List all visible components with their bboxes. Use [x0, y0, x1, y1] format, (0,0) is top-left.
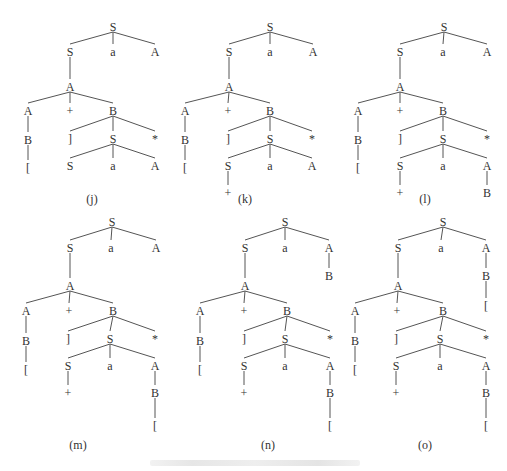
tree-node: B — [439, 304, 447, 318]
tree-edge — [28, 92, 70, 103]
tree-node: + — [241, 304, 248, 318]
tree-node: A — [22, 304, 31, 318]
tree-node: + — [65, 386, 72, 400]
tree-node: B — [326, 386, 334, 400]
tree-edge — [270, 116, 312, 131]
tree-edge — [440, 344, 486, 358]
parse-tree-figure: SSaAAA+BB[]S*SaA(j)SSaAAA+BB[]S*SaA+(k)S… — [0, 0, 507, 471]
tree-node: B — [266, 104, 274, 118]
tree-node: S — [437, 332, 444, 346]
tree-node: + — [67, 104, 74, 118]
tree-edge — [398, 291, 443, 303]
tree-node: a — [110, 45, 116, 59]
tree-node: [ — [328, 419, 332, 433]
tree-edge — [270, 32, 313, 44]
tree-node: A — [152, 241, 161, 255]
tree-edge — [285, 316, 287, 331]
tree-node: + — [225, 104, 232, 118]
tree-edge — [70, 291, 113, 303]
tree-node: S — [67, 159, 74, 173]
parse-tree-m: SSaAAA+BB[]S*SaA+B[(m) — [22, 215, 161, 452]
tree-node: S — [282, 215, 289, 229]
tree-node: A — [151, 159, 160, 173]
tree-edge — [113, 32, 155, 44]
tree-edge — [245, 291, 287, 303]
tree-node: + — [393, 386, 400, 400]
tree-edge — [398, 227, 443, 240]
tree-node: A — [241, 279, 250, 293]
subfigure-label: (n) — [261, 438, 275, 452]
tree-node: A — [483, 45, 492, 59]
figure-caption — [150, 460, 360, 466]
tree-edge — [443, 227, 486, 240]
tree-node: S — [242, 241, 249, 255]
tree-edge — [355, 291, 398, 303]
tree-edge — [444, 32, 487, 44]
tree-node: S — [225, 159, 232, 173]
tree-node: [ — [484, 299, 488, 313]
tree-node: ] — [398, 132, 402, 146]
tree-node: B — [196, 334, 204, 348]
tree-node: S — [107, 332, 114, 346]
tree-node: A — [309, 45, 318, 59]
tree-node: S — [282, 332, 289, 346]
tree-node: a — [440, 159, 446, 173]
tree-node: A — [394, 279, 403, 293]
tree-node: A — [483, 159, 492, 173]
tree-edge — [112, 227, 156, 240]
tree-node: B — [22, 334, 30, 348]
tree-node: S — [109, 215, 116, 229]
tree-edge — [68, 344, 110, 358]
tree-node: A — [66, 80, 75, 94]
tree-edge — [244, 344, 285, 358]
tree-node: [ — [198, 363, 202, 377]
tree-node: B — [181, 133, 189, 147]
tree-node: + — [397, 186, 404, 200]
tree-edge — [229, 32, 270, 44]
tree-node: A — [66, 279, 75, 293]
tree-node: S — [393, 359, 400, 373]
tree-node: S — [267, 20, 274, 34]
tree-node: a — [267, 45, 273, 59]
tree-node: [ — [24, 363, 28, 377]
tree-node: + — [397, 104, 404, 118]
tree-node: B — [325, 269, 333, 283]
tree-node: B — [482, 269, 490, 283]
tree-node: + — [66, 304, 73, 318]
tree-node: a — [110, 159, 116, 173]
subfigure-label: (k) — [238, 192, 252, 206]
tree-edge — [443, 316, 486, 331]
tree-node: * — [309, 132, 315, 146]
tree-node: A — [181, 104, 190, 118]
tree-edge — [26, 291, 70, 303]
tree-edge — [443, 144, 487, 158]
tree-node: B — [483, 186, 491, 200]
tree-node: B — [151, 386, 159, 400]
tree-node: ] — [66, 332, 70, 346]
tree-node: S — [65, 359, 72, 373]
tree-edge — [68, 316, 113, 331]
tree-node: a — [282, 241, 288, 255]
tree-node: A — [24, 104, 33, 118]
tree-node: ] — [394, 332, 398, 346]
tree-node: a — [108, 241, 114, 255]
tree-node: A — [308, 159, 317, 173]
tree-edge — [270, 144, 312, 158]
tree-node: ] — [242, 332, 246, 346]
tree-node: A — [482, 359, 491, 373]
tree-node: a — [282, 359, 288, 373]
tree-node: a — [107, 359, 113, 373]
tree-node: A — [325, 241, 334, 255]
parse-tree-n: SSaABAA+BB[]S*SaA+B[(n) — [196, 215, 335, 452]
tree-node: S — [67, 45, 74, 59]
tree-edge — [229, 92, 270, 103]
subfigure-label: (o) — [418, 438, 432, 452]
tree-edge — [440, 316, 443, 331]
tree-node: S — [110, 132, 117, 146]
tree-node: B — [482, 386, 490, 400]
tree-node: S — [67, 241, 74, 255]
tree-node: * — [484, 132, 490, 146]
tree-node: S — [241, 359, 248, 373]
tree-node: S — [226, 45, 233, 59]
tree-node: a — [267, 159, 273, 173]
